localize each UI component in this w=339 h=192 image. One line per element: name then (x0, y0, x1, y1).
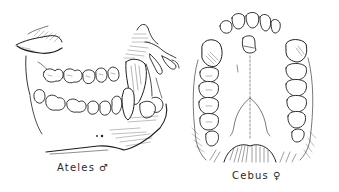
cebus-palate-illustration (180, 0, 339, 192)
cebus-palate-drawing (180, 0, 339, 192)
ateles-genus-label: Ateles (57, 162, 95, 173)
female-symbol-icon: ♀ (273, 170, 282, 181)
ateles-caption: Ateles♂ (57, 162, 109, 173)
male-symbol-icon: ♂ (99, 162, 109, 173)
cebus-caption: Cebus♀ (232, 170, 282, 181)
cebus-genus-label: Cebus (232, 170, 269, 181)
